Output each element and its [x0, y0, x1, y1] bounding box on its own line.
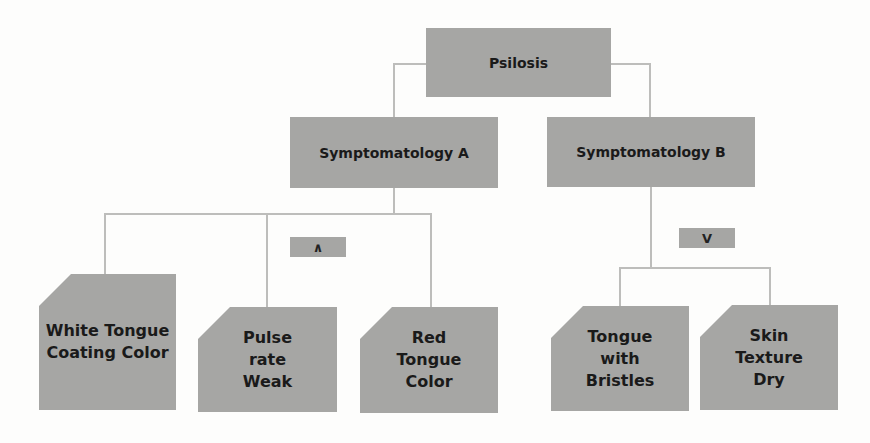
branch-a-label: Symptomatology A [319, 145, 469, 161]
leaf-label: Tongue with Bristles [580, 326, 660, 392]
and-operator-icon: ∧ [313, 240, 324, 255]
branch-node-symptomatology-b: Symptomatology B [547, 117, 755, 187]
leaf-node-skin-texture-dry: Skin Texture Dry [700, 305, 838, 410]
connector-b-to-skin [769, 267, 771, 306]
leaf-label: White Tongue Coating Color [45, 320, 170, 364]
connector-a-down [393, 187, 395, 214]
connector-root-right [610, 63, 651, 65]
and-operator-badge: ∧ [290, 237, 346, 257]
connector-root-to-b [649, 63, 651, 118]
leaf-label: Pulse rate Weak [233, 327, 303, 393]
root-node-label: Psilosis [489, 55, 548, 71]
branch-node-symptomatology-a: Symptomatology A [290, 117, 498, 188]
connector-b-bus [619, 267, 771, 269]
leaf-node-red-tongue-color: Red Tongue Color [360, 307, 498, 413]
connector-b-down [650, 186, 652, 269]
root-node-psilosis: Psilosis [426, 28, 611, 97]
connector-a-to-pulse [266, 213, 268, 308]
leaf-label: Skin Texture Dry [729, 325, 809, 391]
branch-b-label: Symptomatology B [576, 144, 726, 160]
leaf-label: Red Tongue Color [389, 327, 469, 393]
leaf-node-tongue-with-bristles: Tongue with Bristles [551, 306, 689, 411]
connector-a-bus [104, 213, 432, 215]
connector-b-to-tongue [619, 267, 621, 307]
connector-a-to-white [104, 213, 106, 275]
connector-a-to-red [430, 213, 432, 308]
connector-root-to-a [393, 63, 395, 118]
or-operator-icon: V [702, 231, 712, 246]
or-operator-badge: V [679, 228, 735, 248]
leaf-node-white-tongue-coating-color: White Tongue Coating Color [39, 274, 176, 410]
connector-root-left [394, 63, 428, 65]
leaf-node-pulse-rate-weak: Pulse rate Weak [198, 307, 337, 412]
